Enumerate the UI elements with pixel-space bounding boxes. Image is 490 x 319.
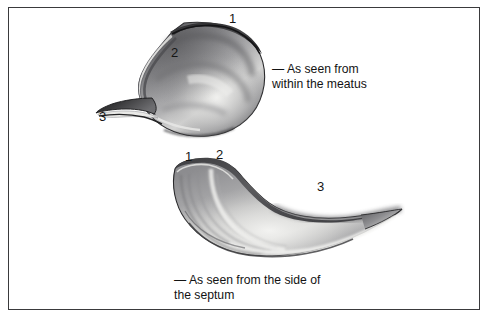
figure-label-bottom-1: 1 <box>185 150 192 163</box>
figure-superior-view <box>92 18 270 140</box>
figure-label-bottom-3: 3 <box>317 180 324 193</box>
figure-label-top-3: 3 <box>99 110 106 123</box>
figure-label-top-1: 1 <box>229 12 236 25</box>
figure-label-bottom-2: 2 <box>216 148 223 161</box>
caption-lateral-view: — As seen from the side of the septum <box>174 273 394 302</box>
caption-superior-view: — As seen from within the meatus <box>272 62 422 91</box>
illustration-plate: 1 2 3 — As seen from within the meatus <box>0 0 490 319</box>
figure-lateral-view <box>165 155 405 267</box>
figure-label-top-2: 2 <box>171 46 178 59</box>
